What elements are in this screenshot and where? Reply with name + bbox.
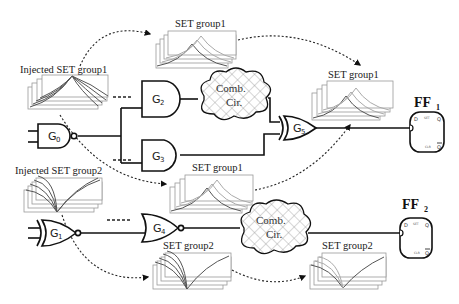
- svg-text:2: 2: [160, 99, 164, 107]
- comb-circuit-cloud-2: Comb. Cir.: [241, 200, 310, 254]
- arrow-lower-to-right: [232, 270, 305, 282]
- svg-text:4: 4: [161, 228, 166, 236]
- svg-text:Q: Q: [437, 116, 441, 122]
- svg-text:SET: SET: [424, 116, 430, 120]
- svg-text:5: 5: [301, 128, 305, 136]
- set-group2-lower-waveforms: [153, 251, 231, 289]
- svg-text:Cir.: Cir.: [226, 96, 242, 108]
- svg-text:0: 0: [56, 136, 60, 144]
- svg-text:2: 2: [424, 205, 428, 214]
- svg-text:D: D: [414, 116, 418, 122]
- svg-text:Q: Q: [437, 144, 441, 150]
- set-group2-right-waveforms: [310, 253, 386, 289]
- injected-set-group1-waveforms: [28, 75, 108, 109]
- injected-set-group2-waveforms: [24, 176, 102, 212]
- flipflop-ff2: FF 2 D SET Q CLR Q: [400, 197, 432, 258]
- svg-text:Comb.: Comb.: [256, 214, 286, 226]
- set-group1-top-waveforms: [156, 31, 236, 68]
- svg-text:Q: Q: [425, 222, 429, 228]
- flipflop-ff1: FF 1 D SET Q CLR Q: [410, 95, 444, 152]
- arrow-injected1-to-top: [80, 31, 150, 66]
- injected-set-group2-label: Injected SET group2: [15, 165, 102, 176]
- set-group1-right-label: SET group1: [328, 69, 379, 80]
- injected-set-group1-label: Injected SET group1: [20, 64, 107, 75]
- svg-text:CLR: CLR: [414, 251, 420, 255]
- svg-text:FF: FF: [414, 95, 431, 110]
- svg-text:1: 1: [436, 103, 440, 112]
- arrow-g1-to-lower: [62, 215, 148, 278]
- svg-text:D: D: [404, 222, 408, 228]
- circuit-diagram: Injected SET group1 SET group1 SET group…: [0, 0, 459, 304]
- svg-text:CLR: CLR: [425, 145, 431, 149]
- set-group1-right-waveforms: [312, 81, 393, 120]
- svg-text:SET: SET: [413, 222, 419, 226]
- set-group2-lower-label: SET group2: [163, 240, 214, 251]
- svg-text:FF: FF: [402, 197, 419, 212]
- svg-text:Q: Q: [425, 250, 429, 256]
- comb-circuit-cloud-1: Comb. Cir.: [201, 68, 270, 120]
- gate-g2-and: G 2: [142, 81, 180, 117]
- set-group1-mid-waveforms: [170, 175, 253, 213]
- gate-g4-nor: G 4: [142, 214, 184, 242]
- gate-g0-nand: G 0: [38, 124, 77, 148]
- set-group2-right-label: SET group2: [322, 240, 373, 251]
- arrow-top-to-right: [238, 36, 360, 65]
- svg-text:3: 3: [160, 156, 164, 164]
- svg-text:Cir.: Cir.: [266, 228, 282, 240]
- set-group1-top-label: SET group1: [175, 18, 226, 29]
- set-group1-mid-label: SET group1: [192, 162, 243, 173]
- gate-g5-xor: G 5: [279, 116, 316, 140]
- svg-text:Comb.: Comb.: [216, 82, 246, 94]
- gate-g3-and: G 3: [142, 140, 176, 171]
- svg-text:1: 1: [58, 233, 62, 241]
